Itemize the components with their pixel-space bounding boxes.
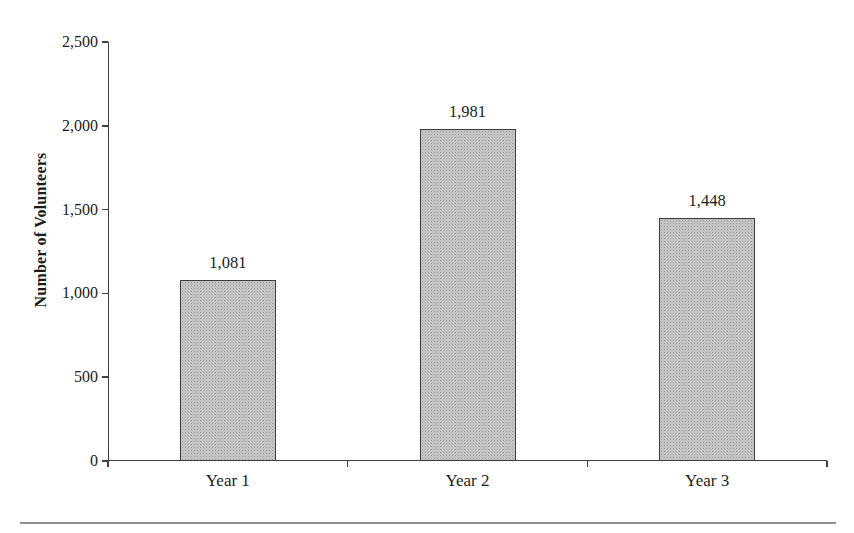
y-axis-tick [102, 125, 108, 127]
bar-year-3 [659, 218, 755, 461]
x-axis-tick [587, 461, 589, 467]
y-axis-tick-label: 500 [38, 369, 98, 385]
x-axis-tick [107, 461, 109, 467]
x-axis-tick [347, 461, 349, 467]
bar-value-label: 1,448 [652, 192, 762, 210]
y-axis-tick [102, 209, 108, 211]
bar-value-label: 1,981 [413, 103, 523, 121]
x-axis-category-label: Year 1 [168, 472, 288, 490]
y-axis-tick [102, 376, 108, 378]
volunteers-bar-chart-page: Number of Volunteers 05001,0001,5002,000… [0, 0, 854, 533]
y-axis-tick-label: 2,500 [38, 34, 98, 50]
bar-year-2 [420, 129, 516, 461]
bar-year-1 [180, 280, 276, 461]
y-axis-title: Number of Volunteers [32, 153, 50, 308]
bar-value-label: 1,081 [173, 254, 283, 272]
y-axis-tick [102, 293, 108, 295]
footer-divider-line [20, 522, 836, 524]
y-axis-tick-label: 2,000 [38, 118, 98, 134]
x-axis-category-label: Year 3 [647, 472, 767, 490]
y-axis-tick-label: 1,000 [38, 285, 98, 301]
x-axis-category-label: Year 2 [408, 472, 528, 490]
y-axis-tick-label: 1,500 [38, 202, 98, 218]
y-axis-tick [102, 41, 108, 43]
x-axis-tick [826, 461, 828, 467]
y-axis-tick-label: 0 [38, 453, 98, 469]
